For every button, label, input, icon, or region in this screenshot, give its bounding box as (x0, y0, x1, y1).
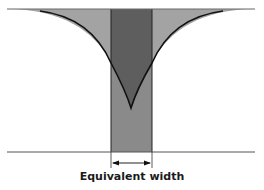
overlap-region (7, 9, 255, 108)
equivalent-width-diagram: Equivalent width (0, 0, 264, 190)
arrowhead-right-icon (144, 161, 151, 166)
equivalent-width-label: Equivalent width (0, 170, 264, 183)
arrowhead-left-icon (112, 161, 119, 166)
